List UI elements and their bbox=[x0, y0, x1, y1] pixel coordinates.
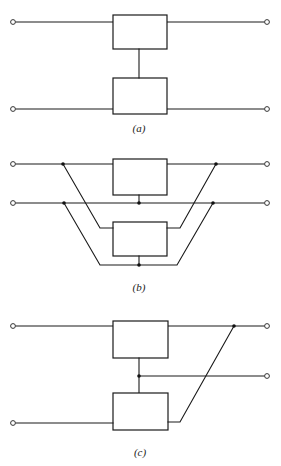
terminal-icon bbox=[11, 107, 16, 112]
panel-a-label: (a) bbox=[133, 122, 146, 135]
junction-dot bbox=[211, 201, 215, 205]
network-diagrams: (a) (b) bbox=[0, 0, 281, 466]
junction-dot bbox=[137, 263, 141, 267]
junction-dot bbox=[62, 201, 66, 205]
terminal-icon bbox=[265, 201, 270, 206]
b-right-upper-diagonal bbox=[167, 164, 216, 228]
junction-dot bbox=[61, 162, 65, 166]
terminal-icon bbox=[11, 20, 16, 25]
b-top-two-port bbox=[113, 159, 167, 195]
junction-dot bbox=[137, 201, 141, 205]
terminal-icon bbox=[265, 20, 270, 25]
terminal-icon bbox=[265, 374, 270, 379]
junction-dot bbox=[214, 162, 218, 166]
junction-dot bbox=[137, 374, 141, 378]
c-top-two-port bbox=[113, 321, 168, 358]
c-diagonal bbox=[168, 326, 234, 422]
panel-b: (b) bbox=[11, 159, 270, 294]
panel-c: (c) bbox=[11, 321, 270, 459]
terminal-icon bbox=[11, 324, 16, 329]
terminal-icon bbox=[11, 421, 16, 426]
b-left-upper-diagonal bbox=[63, 164, 113, 228]
terminal-icon bbox=[11, 201, 16, 206]
a-bottom-two-port bbox=[113, 78, 167, 114]
panel-a: (a) bbox=[11, 15, 270, 135]
a-top-two-port bbox=[113, 15, 167, 49]
terminal-icon bbox=[265, 324, 270, 329]
panel-c-label: (c) bbox=[134, 446, 147, 459]
panel-b-label: (b) bbox=[133, 281, 146, 294]
terminal-icon bbox=[265, 107, 270, 112]
terminal-icon bbox=[11, 162, 16, 167]
b-bottom-two-port bbox=[113, 222, 167, 256]
junction-dot bbox=[232, 324, 236, 328]
terminal-icon bbox=[265, 162, 270, 167]
c-bottom-two-port bbox=[113, 393, 168, 430]
